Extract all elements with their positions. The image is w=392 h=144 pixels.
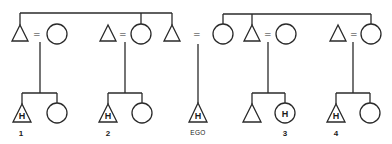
children-group-1: H 1 [13,93,67,138]
h-marker: H [19,111,26,121]
marriage-sign: = [119,29,127,39]
marriage-sign: = [33,29,41,39]
kinship-diagram: = = = = = H [0,0,392,144]
female-circle-icon [47,103,67,123]
children-group-3: H 3 [243,93,295,138]
male-triangle-icon [164,25,180,41]
female-circle-icon [276,24,296,44]
ego-group: H EGO [189,103,207,136]
h-marker: H [105,111,112,121]
label-3: 3 [283,129,288,138]
label-ego: EGO [190,129,205,136]
children-group-2: H 2 [99,93,152,138]
label-4: 4 [334,129,339,138]
marriage-sign: = [350,29,358,39]
female-circle-icon [360,103,380,123]
male-triangle-icon [330,25,346,41]
male-triangle-icon [243,104,261,122]
h-marker: H [195,111,202,121]
h-marker: H [282,109,289,119]
right-sibling-group: = = = [193,14,381,103]
marriage-sign: = [264,29,272,39]
female-circle-icon [213,24,233,44]
female-circle-icon [131,24,151,44]
left-sibling-group: = = [12,13,180,93]
female-circle-icon [47,24,67,44]
children-group-4: H 4 [327,93,380,138]
male-triangle-icon [12,25,28,41]
male-triangle-icon [244,25,260,41]
label-2: 2 [106,129,111,138]
female-circle-icon [361,24,381,44]
label-1: 1 [19,129,24,138]
h-marker: H [333,111,340,121]
male-triangle-icon [100,25,116,41]
female-circle-icon [132,103,152,123]
marriage-sign: = [193,29,201,39]
